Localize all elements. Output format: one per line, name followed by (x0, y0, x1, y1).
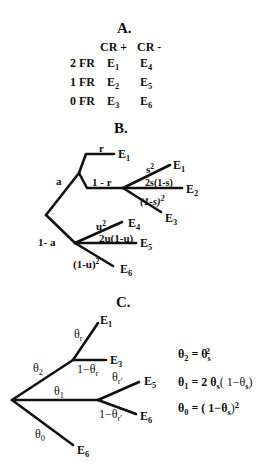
cell-e1: E1 (107, 56, 119, 72)
equation-theta1: θ1 = 2 θs( 1−θs) (178, 375, 253, 391)
leaf-e3: E3 (165, 211, 177, 227)
col-header-cr-plus: CR + (100, 40, 127, 55)
leaf-e5: E5 (140, 236, 152, 252)
label-1-s-squared: (1-s)2 (140, 194, 165, 207)
row-label-1fr: 1 FR (70, 75, 95, 90)
panel-c-title: C. (116, 294, 131, 311)
cell-e4: E4 (140, 56, 152, 72)
label-theta0: θ0 (35, 427, 45, 443)
col-header-cr-minus: CR - (137, 40, 161, 55)
leaf-c-e6b: E6 (77, 443, 89, 459)
label-2s1-s: 2s(1-s) (145, 177, 173, 188)
cell-e3: E3 (107, 94, 119, 110)
label-u2: u2 (96, 219, 106, 232)
panel-a-title: A. (117, 20, 132, 37)
panel-b-title: B. (114, 120, 128, 137)
label-1-theta-r: 1−θr (77, 362, 98, 378)
label-theta2: θ2 (33, 361, 43, 377)
cell-e6: E6 (140, 94, 152, 110)
label-theta-r-prime: θr′ (112, 370, 122, 386)
label-2u1-u: 2u(1-u) (99, 232, 133, 244)
leaf-e6: E6 (120, 262, 132, 278)
cell-e5: E5 (140, 75, 152, 91)
leaf-c-e5: E5 (144, 374, 156, 390)
label-s2: s2 (146, 162, 154, 175)
row-label-2fr: 2 FR (70, 56, 95, 71)
label-1-r: 1 - r (92, 176, 112, 188)
row-label-0fr: 0 FR (70, 94, 95, 109)
label-1-u-squared: (1-u)2 (73, 257, 99, 270)
label-theta1: θ1 (54, 384, 64, 400)
leaf-c-e6a: E6 (140, 409, 152, 425)
equation-theta2: θ2 = θs2 (178, 347, 210, 363)
cell-e2: E2 (107, 75, 119, 91)
leaf-e2: E2 (186, 182, 198, 198)
leaf-e1: E1 (173, 158, 185, 174)
leaf-e1-top: E1 (118, 147, 130, 163)
label-r: r (99, 142, 104, 154)
label-1-theta-r-prime: 1−θr′ (99, 407, 122, 423)
equation-theta0: θ0 = ( 1−θs)2 (178, 401, 239, 417)
leaf-e4: E4 (128, 216, 140, 232)
leaf-c-e3: E3 (110, 353, 122, 369)
label-theta-r: θr (74, 327, 83, 343)
label-a: a (56, 175, 62, 187)
label-1-a: 1- a (38, 236, 55, 248)
leaf-c-e1: E1 (100, 313, 112, 329)
